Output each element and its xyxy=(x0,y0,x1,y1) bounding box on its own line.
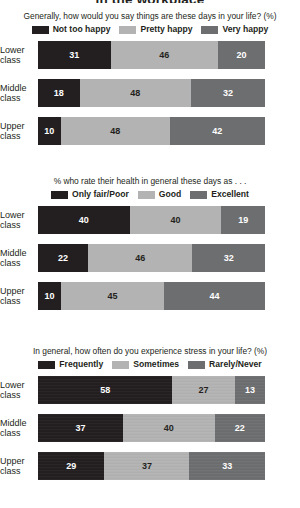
chart-row: Upperclass104544 xyxy=(0,281,300,311)
chart-row: Middleclass224632 xyxy=(0,243,300,273)
bar-segment: 48 xyxy=(80,79,191,107)
row-label: Upperclass xyxy=(0,456,38,476)
chart-row: Lowerclass582713 xyxy=(0,375,300,405)
chart-rows: Lowerclass314620Middleclass184832Uppercl… xyxy=(0,40,300,146)
legend-label: Very happy xyxy=(222,25,268,34)
chart-panel-stress: In general, how often do you experience … xyxy=(0,346,300,481)
legend-swatch-icon xyxy=(51,191,68,199)
legend-item: Good xyxy=(138,190,181,199)
chart-row: Middleclass184832 xyxy=(0,78,300,108)
chart-row: Upperclass104842 xyxy=(0,116,300,146)
bar-segment: 18 xyxy=(38,79,80,107)
legend-label: Excellent xyxy=(211,190,249,199)
row-label: Middleclass xyxy=(0,248,38,268)
bar-segment: 10 xyxy=(38,117,61,145)
stacked-bar: 293733 xyxy=(38,452,265,480)
row-label: Lowerclass xyxy=(0,380,38,400)
bar-segment: 40 xyxy=(130,206,222,234)
legend-label: Only fair/Poor xyxy=(72,190,129,199)
legend-label: Sometimes xyxy=(133,360,179,369)
bar-segment: 37 xyxy=(38,414,123,442)
stacked-bar: 374022 xyxy=(38,414,265,442)
chart-rows: Lowerclass582713Middleclass374022Uppercl… xyxy=(0,375,300,481)
stacked-bar: 582713 xyxy=(38,376,265,404)
chart-panel-health: % who rate their health in general these… xyxy=(0,176,300,311)
chart-legend: Only fair/Poor Good Excellent xyxy=(0,190,300,199)
legend-swatch-icon xyxy=(38,361,55,369)
bar-segment: 19 xyxy=(221,206,265,234)
legend-item: Excellent xyxy=(190,190,249,199)
row-label: Lowerclass xyxy=(0,45,38,65)
legend-swatch-icon xyxy=(138,191,155,199)
legend-label: Frequently xyxy=(59,360,103,369)
stacked-bar: 314620 xyxy=(38,41,265,69)
chart-legend: Frequently Sometimes Rarely/Never xyxy=(0,360,300,369)
bar-segment: 40 xyxy=(38,206,130,234)
chart-row: Lowerclass404019 xyxy=(0,205,300,235)
chart-rows: Lowerclass404019Middleclass224632Uppercl… xyxy=(0,205,300,311)
bar-segment: 27 xyxy=(172,376,235,404)
legend-swatch-icon xyxy=(119,26,136,34)
chart-row: Lowerclass314620 xyxy=(0,40,300,70)
stacked-bar: 104544 xyxy=(38,282,265,310)
legend-swatch-icon xyxy=(201,26,218,34)
bar-segment: 46 xyxy=(111,41,219,69)
bar-segment: 58 xyxy=(38,376,172,404)
legend-swatch-icon xyxy=(188,361,205,369)
chart-panel-happiness: Generally, how would you say things are … xyxy=(0,11,300,146)
bar-segment: 22 xyxy=(215,414,265,442)
chart-legend: Not too happy Pretty happy Very happy xyxy=(0,25,300,34)
legend-label: Good xyxy=(159,190,181,199)
row-label: Upperclass xyxy=(0,121,38,141)
chart-row: Upperclass293733 xyxy=(0,451,300,481)
legend-label: Not too happy xyxy=(53,25,111,34)
legend-swatch-icon xyxy=(190,191,207,199)
bar-segment: 37 xyxy=(104,452,189,480)
legend-item: Rarely/Never xyxy=(188,360,262,369)
chart-row: Middleclass374022 xyxy=(0,413,300,443)
bar-segment: 10 xyxy=(38,282,61,310)
stacked-bar: 104842 xyxy=(38,117,265,145)
stacked-bar: 404019 xyxy=(38,206,265,234)
row-label: Middleclass xyxy=(0,83,38,103)
bar-segment: 20 xyxy=(218,41,265,69)
bar-segment: 44 xyxy=(164,282,265,310)
legend-swatch-icon xyxy=(32,26,49,34)
chart-subtitle: In general, how often do you experience … xyxy=(0,346,300,357)
bar-segment: 46 xyxy=(88,244,192,272)
bar-segment: 13 xyxy=(235,376,265,404)
infographic-page: in the workplace Generally, how would yo… xyxy=(0,0,300,508)
bar-segment: 48 xyxy=(61,117,170,145)
chart-subtitle: Generally, how would you say things are … xyxy=(0,11,300,22)
legend-item: Sometimes xyxy=(112,360,179,369)
bar-segment: 42 xyxy=(170,117,265,145)
bar-segment: 40 xyxy=(123,414,215,442)
bar-segment: 32 xyxy=(191,79,265,107)
bar-segment: 31 xyxy=(38,41,111,69)
bar-segment: 32 xyxy=(192,244,265,272)
legend-item: Only fair/Poor xyxy=(51,190,129,199)
legend-swatch-icon xyxy=(112,361,129,369)
legend-label: Rarely/Never xyxy=(209,360,262,369)
row-label: Upperclass xyxy=(0,286,38,306)
chart-subtitle: % who rate their health in general these… xyxy=(0,176,300,187)
legend-label: Pretty happy xyxy=(140,25,192,34)
legend-item: Not too happy xyxy=(32,25,111,34)
legend-item: Very happy xyxy=(201,25,268,34)
bar-segment: 33 xyxy=(189,452,265,480)
row-label: Lowerclass xyxy=(0,210,38,230)
bar-segment: 45 xyxy=(61,282,164,310)
bar-segment: 22 xyxy=(38,244,88,272)
legend-item: Pretty happy xyxy=(119,25,192,34)
stacked-bar: 184832 xyxy=(38,79,265,107)
legend-item: Frequently xyxy=(38,360,103,369)
page-title: in the workplace xyxy=(0,0,300,3)
stacked-bar: 224632 xyxy=(38,244,265,272)
row-label: Middleclass xyxy=(0,418,38,438)
bar-segment: 29 xyxy=(38,452,104,480)
